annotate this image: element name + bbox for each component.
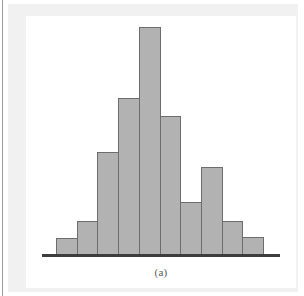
histogram-bar — [77, 221, 99, 254]
histogram-bar — [97, 152, 119, 254]
figure-panel: (a) — [26, 16, 296, 288]
histogram-bar — [180, 202, 202, 254]
histogram-bars — [56, 16, 264, 254]
scanned-page: (a) — [0, 0, 304, 296]
figure-caption: (a) — [26, 266, 296, 278]
histogram-bar — [56, 238, 78, 254]
paper-margin: (a) — [8, 4, 298, 292]
page-edge-rule — [2, 0, 3, 296]
histogram-bar — [222, 221, 244, 254]
histogram-bar — [118, 98, 140, 254]
histogram-bar — [242, 237, 264, 254]
histogram-bar — [160, 116, 182, 254]
histogram-bar — [139, 27, 161, 254]
histogram-baseline-axis — [42, 254, 280, 257]
histogram-plot — [26, 16, 296, 254]
histogram-bar — [201, 167, 223, 254]
